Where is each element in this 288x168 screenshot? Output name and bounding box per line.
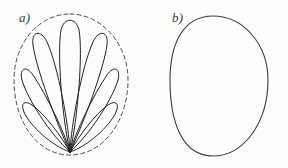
dashed-ovoid-envelope bbox=[14, 14, 128, 155]
figure-root: a) b) bbox=[0, 0, 288, 168]
panel-b-label: b) bbox=[172, 10, 183, 26]
solid-ovoid-outline bbox=[170, 16, 268, 156]
panel-b: b) bbox=[144, 0, 288, 168]
panel-a-label: a) bbox=[19, 10, 30, 26]
petal-4 bbox=[70, 33, 107, 152]
panel-a: a) bbox=[0, 0, 144, 168]
petal-2 bbox=[33, 33, 70, 152]
panel-b-drawing bbox=[144, 0, 288, 168]
